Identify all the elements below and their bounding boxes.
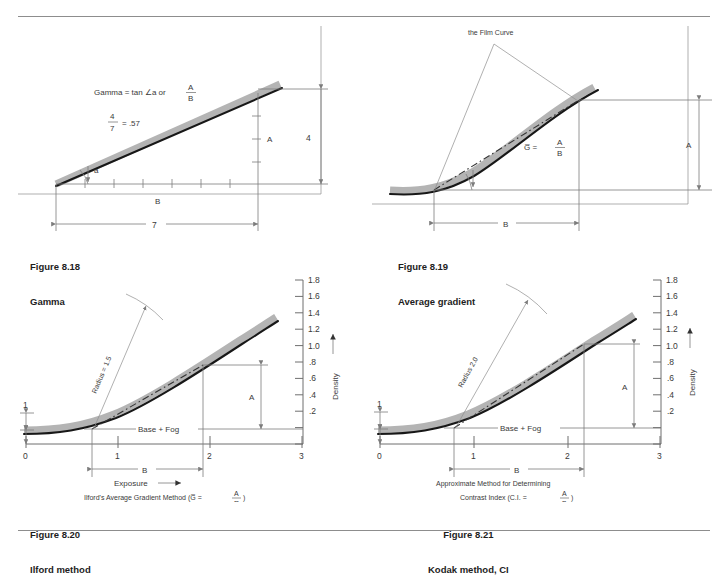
rise-label-A: A [249, 393, 255, 402]
ilford-method-denominator: R [234, 500, 239, 502]
ilford-method-close: ) [243, 494, 245, 502]
density-tick-1-0: 1.0 [308, 341, 320, 351]
rise-label-A: A [267, 135, 273, 144]
run-label-B: B [514, 466, 519, 475]
angle-label-a: a [94, 166, 99, 175]
radius-annotation: Radius 2.0 [456, 284, 547, 427]
unit-label: 1 [377, 399, 382, 409]
caption-8-20-title: Ilford method [30, 564, 91, 576]
gamma-formula-denominator: B [188, 94, 193, 103]
run-label-B: B [155, 197, 160, 206]
kodak-method-line-1: Approximate Method for Determining [436, 480, 550, 488]
base-fog-label: Base + Fog [500, 424, 541, 433]
caption-8-20-number: Figure 8.20 [30, 529, 91, 541]
gamma-value: 4 7 = .57 [108, 112, 141, 133]
exposure-tick-3: 3 [657, 451, 662, 461]
callout-line-2: the Film Curve [468, 29, 514, 36]
density-axis: 1.8 1.6 1.4 1.2 1.0 .8 .6 .4 .2 Density [653, 275, 697, 444]
density-tick-0-8: .8 [667, 357, 674, 367]
density-axis-label: Density [688, 369, 697, 396]
figure-8-21: 1.8 1.6 1.4 1.2 1.0 .8 .6 .4 .2 Density … [372, 272, 712, 502]
density-tick-0-2: .2 [309, 406, 316, 416]
exposure-tick-1: 1 [115, 451, 120, 461]
density-tick-0-8: .8 [309, 357, 316, 367]
exposure-tick-1: 1 [471, 451, 476, 461]
radius-label: Radius 2.0 [457, 356, 479, 389]
exposure-tick-0: 0 [23, 451, 28, 461]
caption-8-19-number: Figure 8.19 [398, 261, 475, 273]
density-axis-label: Density [331, 373, 340, 400]
exposure-axis: 0 1 2 3 [377, 436, 662, 461]
top-rule [18, 16, 710, 17]
exposure-caption: Exposure [114, 479, 181, 488]
kodak-method-close: ) [571, 494, 573, 502]
run-label-B: B [503, 220, 508, 229]
run-value-7: 7 [152, 220, 157, 230]
density-tick-1-6: 1.6 [666, 291, 678, 301]
exposure-tick-2: 2 [207, 451, 212, 461]
exposure-label: Exposure [114, 479, 148, 488]
density-tick-1-4: 1.4 [308, 308, 320, 318]
rise-label-A: A [686, 141, 692, 150]
exposure-tick-0: 0 [377, 451, 382, 461]
radius-label: Radius = 1.5 [90, 355, 112, 394]
rise-ticks [252, 116, 261, 162]
avg-gradient-symbol: G̅ = [524, 143, 537, 152]
figure-8-20: 1.8 1.6 1.4 1.2 1.0 .8 .6 .4 .2 Density [18, 272, 358, 502]
exposure-tick-3: 3 [299, 451, 304, 461]
gamma-formula-text: Gamma = tan ∠a or [94, 88, 166, 97]
density-tick-1-0: 1.0 [666, 341, 678, 351]
characteristic-curve-band [378, 315, 634, 430]
chord-line [92, 365, 203, 429]
ilford-method-main: Ilford's Average Gradient Method (G̅ = [84, 494, 202, 502]
density-tick-0-6: .6 [667, 373, 674, 383]
density-tick-0-2: .2 [667, 406, 674, 416]
radius-arc [126, 294, 163, 320]
density-tick-1-2: 1.2 [666, 324, 678, 334]
density-tick-1-8: 1.8 [308, 275, 320, 285]
kodak-method-line-2: Contrast Index (C.I. = [460, 494, 527, 502]
caption-8-21-title: Kodak method, CI [428, 564, 509, 576]
radius-arc [506, 284, 547, 314]
gamma-value-denominator: 7 [110, 124, 115, 133]
avg-gradient-denominator: B [557, 149, 562, 158]
caption-8-21-number: Figure 8.21 [428, 529, 509, 541]
density-tick-1-8: 1.8 [666, 275, 678, 285]
figure-8-19: A B Selected Points on the Film Curve G̅… [372, 26, 712, 241]
avg-gradient-formula: G̅ = A B [524, 138, 565, 158]
unit-label: 1 [23, 400, 28, 410]
rise-label-A: A [622, 383, 628, 392]
caption-8-18-number: Figure 8.18 [30, 261, 80, 273]
characteristic-curve-band [24, 317, 276, 430]
kodak-method-text: Approximate Method for Determining Contr… [436, 480, 573, 502]
gamma-formula-numerator: A [188, 83, 194, 92]
density-tick-1-2: 1.2 [308, 324, 320, 334]
exposure-axis: 0 1 2 3 [23, 436, 304, 461]
density-tick-1-4: 1.4 [666, 308, 678, 318]
density-tick-1-6: 1.6 [308, 291, 320, 301]
figure-8-18: a A B 4 7 Gamma = tan ∠a or A B [18, 26, 358, 241]
unit-dimension: 1 [374, 399, 388, 444]
density-tick-0-4: .4 [667, 390, 674, 400]
caption-8-20: Figure 8.20 Ilford method [30, 506, 91, 579]
bottom-rule [18, 530, 710, 531]
density-axis: 1.8 1.6 1.4 1.2 1.0 .8 .6 .4 .2 Density [295, 275, 340, 444]
kodak-method-denominator: B [562, 500, 567, 502]
run-ticks [85, 179, 230, 188]
avg-gradient-numerator: A [557, 138, 563, 147]
gamma-formula: Gamma = tan ∠a or A B [94, 83, 196, 103]
ilford-method-numerator: A [234, 490, 239, 497]
gamma-value-numerator: 4 [110, 112, 115, 121]
exposure-tick-2: 2 [565, 451, 570, 461]
density-tick-0-4: .4 [309, 390, 316, 400]
kodak-method-numerator: A [562, 490, 567, 497]
gamma-value-equals: = .57 [122, 119, 141, 128]
run-label-B: B [142, 466, 147, 475]
ilford-method-text: Ilford's Average Gradient Method (G̅ = A… [84, 490, 245, 502]
rise-value-4: 4 [306, 133, 311, 143]
caption-8-21: Figure 8.21 Kodak method, CI [428, 506, 509, 579]
base-fog-label: Base + Fog [138, 425, 179, 434]
unit-dimension: 1 [20, 400, 34, 444]
density-tick-0-6: .6 [309, 373, 316, 383]
